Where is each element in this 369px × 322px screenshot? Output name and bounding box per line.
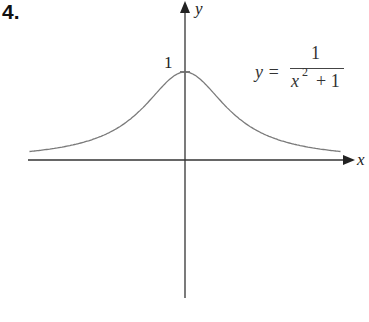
x-axis-arrow-icon bbox=[343, 155, 355, 165]
equation-denominator-exponent: 2 bbox=[302, 65, 308, 80]
x-axis-label: x bbox=[357, 150, 365, 170]
equation-denominator-base: x bbox=[291, 71, 299, 92]
equation-lhs: y = bbox=[255, 62, 280, 83]
fraction-bar bbox=[290, 68, 344, 69]
equation-denominator-rest: + 1 bbox=[316, 71, 340, 92]
y-tick-label: 1 bbox=[164, 53, 173, 73]
y-axis-arrow-icon bbox=[180, 1, 190, 13]
equation-numerator: 1 bbox=[311, 43, 320, 64]
y-axis-label: y bbox=[195, 0, 203, 19]
